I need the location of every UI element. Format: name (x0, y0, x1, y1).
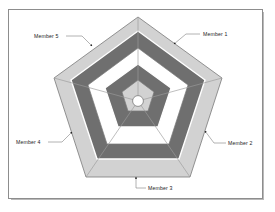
leader-member-3 (136, 177, 146, 188)
leader-member-1 (174, 34, 200, 44)
axis-label-member-1: Member 1 (203, 31, 228, 37)
center-circle-marker (133, 96, 144, 107)
axis-label-member-4: Member 4 (16, 139, 41, 145)
axis-label-member-3: Member 3 (148, 185, 173, 191)
radar-chart (0, 0, 275, 212)
figure-root: Member 1 Member 2 Member 3 Member 4 Memb… (0, 0, 275, 212)
leader-member-4 (48, 132, 72, 142)
leader-member-5 (66, 36, 92, 46)
axis-label-member-2: Member 2 (228, 140, 253, 146)
leader-member-2 (205, 131, 226, 143)
axis-label-member-5: Member 5 (34, 33, 59, 39)
